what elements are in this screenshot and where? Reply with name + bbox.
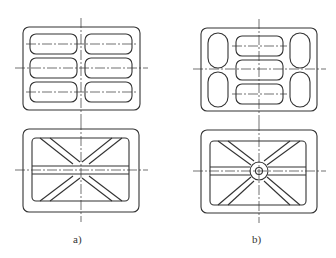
panel-b-bottom-view xyxy=(193,121,326,223)
technical-drawing xyxy=(0,0,336,258)
panel-a-bottom-view xyxy=(15,120,148,222)
panel-a-label: a) xyxy=(73,233,82,245)
panel-a-top-view xyxy=(15,18,148,120)
panel-b-top-view xyxy=(193,19,326,121)
panel-b-label: b) xyxy=(252,233,261,245)
